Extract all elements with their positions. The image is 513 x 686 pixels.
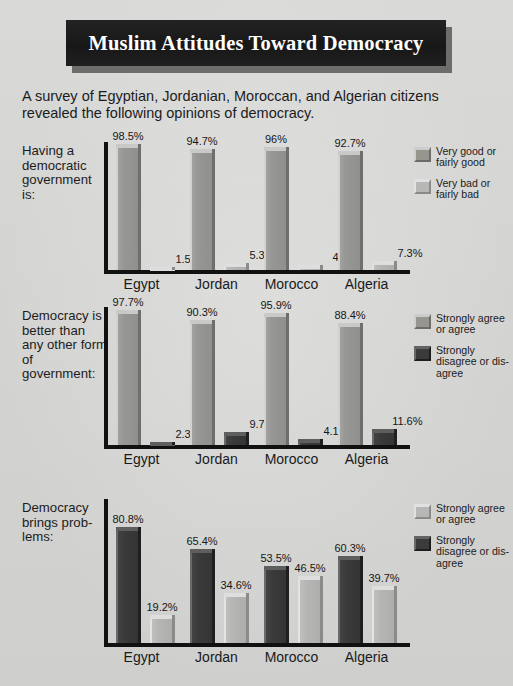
bar-slot: 11.6%	[372, 307, 397, 445]
bar[interactable]: 98.5%	[116, 144, 141, 270]
bar-value-label: 65.4%	[186, 535, 217, 547]
bar-slot: 60.3%	[338, 499, 363, 643]
bar-value-label: 90.3%	[186, 306, 217, 318]
bar-group: 96%4%	[256, 142, 330, 270]
bar-highlight	[264, 147, 266, 270]
bar-slot: 19.2%	[150, 499, 175, 643]
bar[interactable]: 19.2%	[150, 615, 175, 643]
legend-item: Very bad or fairly bad	[414, 178, 510, 201]
bar-slot: 94.7%	[190, 142, 215, 270]
bar[interactable]: 11.6%	[372, 429, 397, 445]
bar[interactable]: 46.5%	[298, 576, 323, 643]
legend-swatch-icon	[414, 179, 431, 194]
bar-group: 97.7%2.3%	[108, 307, 182, 445]
legend-item: Strongly agree or agree	[414, 503, 510, 526]
bar-value-label: 60.3%	[334, 542, 365, 554]
bar-group: 60.3%39.7%	[330, 499, 404, 643]
bar-side-shade	[286, 313, 289, 445]
legend: Strongly agree or agreeStrongly disagree…	[414, 503, 510, 578]
legend-label: Very bad or fairly bad	[436, 178, 510, 201]
bar[interactable]: 2.3%	[150, 442, 175, 445]
bar-slot: 65.4%	[190, 499, 215, 643]
bar[interactable]: 53.5%	[264, 566, 289, 643]
bar-value-label: 97.7%	[112, 296, 143, 308]
plot-area: 97.7%2.3%90.3%9.7%95.9%4.1%88.4%11.6%	[104, 307, 404, 449]
bar-highlight	[190, 320, 192, 445]
chart-panel-democracy-is-better: Democracy is better than any other form …	[0, 305, 513, 467]
bar[interactable]: 95.9%	[264, 313, 289, 445]
bar[interactable]: 4.1%	[298, 439, 323, 445]
bar-side-shade	[360, 323, 363, 445]
bar[interactable]: 7.3%	[372, 261, 397, 270]
bar-slot: 7.3%	[372, 142, 397, 270]
bar-highlight	[338, 323, 340, 445]
bar[interactable]: 96%	[264, 147, 289, 270]
legend-item: Strongly disagree or dis-​agree	[414, 535, 510, 569]
bar-highlight	[338, 151, 340, 270]
legend-item: Strongly disagree or dis-​agree	[414, 345, 510, 379]
bar-group: 94.7%5.3%	[182, 142, 256, 270]
bar-slot: 39.7%	[372, 499, 397, 643]
bar-highlight	[372, 586, 374, 643]
bar-slot: 53.5%	[264, 499, 289, 643]
legend-swatch-icon	[414, 536, 431, 551]
bar-value-label: 34.6%	[220, 579, 251, 591]
bar-highlight	[116, 310, 118, 445]
bar[interactable]: 94.7%	[190, 149, 215, 270]
legend-swatch-icon	[414, 147, 431, 162]
bar-side-shade	[246, 263, 249, 270]
bar-slot: 88.4%	[338, 307, 363, 445]
bar[interactable]: 90.3%	[190, 320, 215, 445]
title-banner: Muslim Attitudes Toward Democracy	[66, 20, 446, 66]
bar-value-label: 94.7%	[186, 135, 217, 147]
category-label: Jordan	[179, 276, 254, 292]
bar-highlight	[116, 144, 118, 270]
bar-slot: 98.5%	[116, 142, 141, 270]
bar[interactable]: 1.5%	[150, 267, 175, 270]
bar-group: 90.3%9.7%	[182, 307, 256, 445]
bar-value-label: 11.6%	[392, 415, 422, 427]
bar-group: 88.4%11.6%	[330, 307, 404, 445]
bar[interactable]: 9.7%	[224, 432, 249, 445]
bar-value-label: 92.7%	[334, 137, 365, 149]
bar-slot: 97.7%	[116, 307, 141, 445]
category-label: Egypt	[104, 451, 179, 467]
bar-slot: 80.8%	[116, 499, 141, 643]
category-label: Egypt	[104, 649, 179, 665]
legend: Strongly agree or agreeStrongly disagree…	[414, 313, 510, 388]
bar-side-shade	[286, 147, 289, 270]
bar-highlight	[264, 313, 266, 445]
bar[interactable]: 39.7%	[372, 586, 397, 643]
bar[interactable]: 60.3%	[338, 556, 363, 643]
bar-slot: 95.9%	[264, 307, 289, 445]
bar-slot: 5.3%	[224, 142, 249, 270]
legend-item: Strongly agree or agree	[414, 313, 510, 336]
bar[interactable]: 5.3%	[224, 263, 249, 270]
bar-groups: 80.8%19.2%65.4%34.6%53.5%46.5%60.3%39.7%	[108, 499, 404, 643]
bar[interactable]: 92.7%	[338, 151, 363, 270]
bar-side-shade	[394, 586, 397, 643]
plot-area: 80.8%19.2%65.4%34.6%53.5%46.5%60.3%39.7%	[104, 499, 404, 647]
legend-label: Strongly disagree or dis-​agree	[436, 535, 510, 569]
bar[interactable]: 80.8%	[116, 527, 141, 643]
category-label: Morocco	[254, 649, 329, 665]
bar[interactable]: 34.6%	[224, 593, 249, 643]
bar-slot: 9.7%	[224, 307, 249, 445]
bar-slot: 4.1%	[298, 307, 323, 445]
bar-side-shade	[320, 439, 323, 445]
bar-value-label: 88.4%	[334, 309, 365, 321]
bar-value-label: 98.5%	[112, 130, 143, 142]
bar-slot: 4%	[298, 142, 323, 270]
category-label: Algeria	[329, 451, 404, 467]
bar-side-shade	[212, 149, 215, 270]
bar[interactable]: 88.4%	[338, 323, 363, 445]
bar-slot: 46.5%	[298, 499, 323, 643]
legend-item: Very good or fairly good	[414, 146, 510, 169]
bar-side-shade	[212, 549, 215, 643]
bar[interactable]: 65.4%	[190, 549, 215, 643]
bar[interactable]: 97.7%	[116, 310, 141, 445]
category-labels: EgyptJordanMoroccoAlgeria	[104, 276, 404, 292]
bar-side-shade	[360, 151, 363, 270]
bar[interactable]: 4%	[298, 265, 323, 270]
bar-side-shade	[172, 615, 175, 643]
